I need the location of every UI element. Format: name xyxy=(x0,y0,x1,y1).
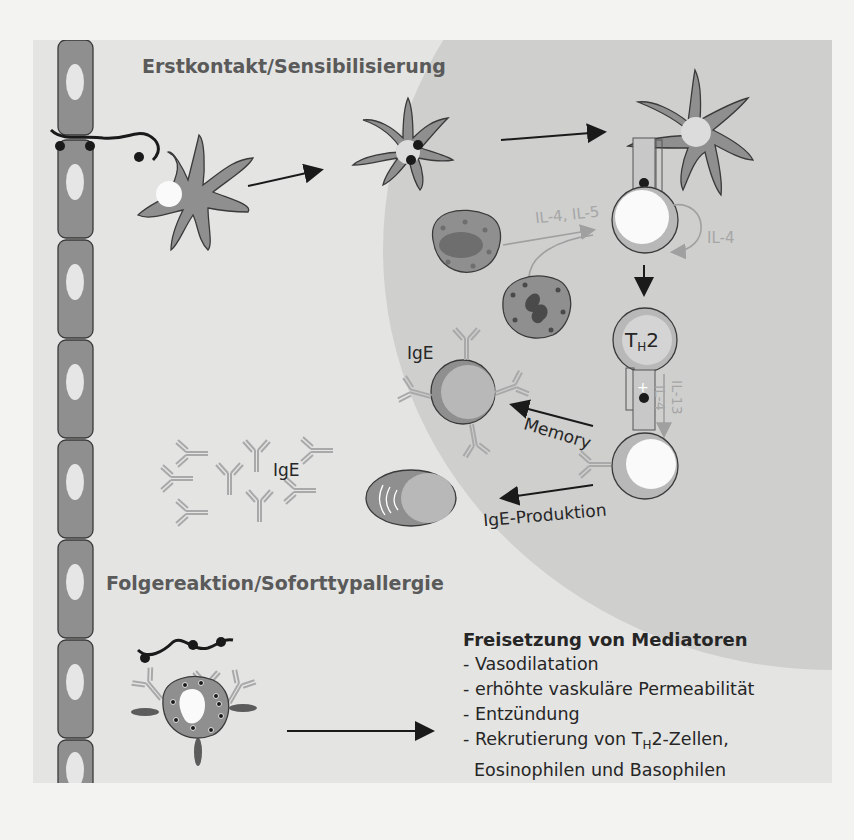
dendritic-cell-1 xyxy=(138,135,253,250)
free-ige-antibodies xyxy=(161,437,333,526)
plasma-cell xyxy=(366,470,456,526)
arrow-migration-1 xyxy=(248,170,320,186)
mediator-item-3: - Entzündung xyxy=(463,702,754,727)
sensitization-title: Erstkontakt/Sensibilisierung xyxy=(142,55,446,77)
il4-autocrine-label: IL-4 xyxy=(707,229,734,247)
th2-label: TH2 xyxy=(625,328,659,354)
il4-vertical-label: IL-4 xyxy=(652,385,668,411)
il13-vertical-label: IL-13 xyxy=(669,380,685,415)
mediator-item-4-continued: Eosinophilen und Basophilen xyxy=(463,758,754,783)
mast-cell xyxy=(130,666,257,766)
lymph-node-region xyxy=(383,40,832,670)
ige-memory-label: IgE xyxy=(407,343,434,363)
basophil xyxy=(503,276,571,338)
mediator-item-4: - Rekrutierung von TH2-Zellen, xyxy=(463,727,754,758)
diagram-panel: + + xyxy=(33,40,832,783)
svg-text:+: + xyxy=(637,379,649,395)
mediator-item-1: - Vasodilatation xyxy=(463,652,754,677)
ige-free-label: IgE xyxy=(273,460,300,480)
mediator-list: Freisetzung von Mediatoren - Vasodilatat… xyxy=(463,627,754,783)
mediator-item-2: - erhöhte vaskuläre Permeabilität xyxy=(463,677,754,702)
reaction-title: Folgereaktion/Soforttypallergie xyxy=(106,572,444,594)
mediator-heading: Freisetzung von Mediatoren xyxy=(463,627,754,652)
